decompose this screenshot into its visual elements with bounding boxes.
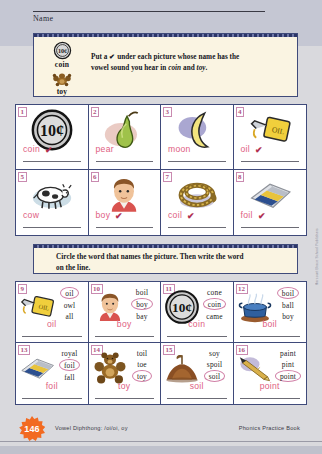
directions-1-text: Put a ✔ under each picture whose name ha… <box>91 52 291 73</box>
answer-line[interactable] <box>241 227 300 228</box>
word-choice-cell[interactable]: 15 soyspoilsoil soil <box>161 343 234 404</box>
picture-word: foil <box>241 210 253 220</box>
check-mark[interactable]: ✔ <box>255 146 263 154</box>
directions-1-end: . <box>206 64 208 72</box>
written-answer: soil <box>161 381 233 391</box>
word-choice-cell[interactable]: 16 paintpintpoint point <box>234 343 307 404</box>
word-option[interactable]: boil <box>133 287 151 297</box>
answer-line[interactable] <box>22 398 82 399</box>
picture-cell[interactable]: 6 boy ✔ <box>89 170 162 235</box>
word-row: cow ✔ <box>23 210 52 220</box>
answer-line[interactable] <box>95 336 155 337</box>
picture-cell[interactable]: 5 cow ✔ <box>16 170 89 235</box>
answer-line[interactable] <box>240 398 301 399</box>
cow-icon <box>16 175 88 215</box>
picture-cell[interactable]: 1 10¢ coin ✔ <box>16 105 89 170</box>
answer-line[interactable] <box>168 227 226 228</box>
word-choice-cell[interactable]: 9 OIL oilowlall oil <box>16 282 89 343</box>
coil-rope-icon <box>161 175 233 215</box>
answer-line[interactable] <box>96 227 154 228</box>
footer-rule <box>0 441 322 442</box>
picture-word: pear <box>96 144 114 154</box>
word-options: oilowlall <box>55 287 85 321</box>
word-row: pear ✔ <box>96 144 127 154</box>
word-choice-cell[interactable]: 13 royalfoilfall foil <box>16 343 89 404</box>
decorative-band <box>34 245 297 248</box>
directions-box-1: 10¢ coin toy Put a ✔ und <box>33 33 298 97</box>
answer-line[interactable] <box>167 336 227 337</box>
answer-line[interactable] <box>167 398 227 399</box>
foil-icon <box>234 175 307 215</box>
check-mark[interactable]: ✔ <box>187 212 195 220</box>
answer-line[interactable] <box>168 161 226 162</box>
worksheet-sheet: Name 10¢ coin <box>0 0 322 446</box>
word-row: foil ✔ <box>241 210 266 220</box>
directions-2-line2: on the line. <box>56 264 90 272</box>
word-row: coil ✔ <box>168 210 195 220</box>
directions-1-word-coin: coin <box>168 64 181 72</box>
word-options: soyspoilsoil <box>200 348 230 382</box>
picture-word: oil <box>241 144 251 154</box>
worksheet-page: Name 10¢ coin <box>0 0 322 454</box>
word-row: boy ✔ <box>96 210 124 220</box>
answer-line[interactable] <box>23 227 81 228</box>
check-mark[interactable]: ✔ <box>45 146 53 154</box>
word-option[interactable]: paint <box>277 348 299 358</box>
picture-cell[interactable]: 7 coil ✔ <box>161 170 234 235</box>
word-option[interactable]: cone <box>204 287 225 297</box>
svg-text:10¢: 10¢ <box>40 122 64 139</box>
word-option[interactable]: pint <box>279 359 297 369</box>
directions-1-line2-pre: vowel sound you hear in <box>91 64 168 72</box>
answer-line[interactable] <box>23 161 81 162</box>
word-options: royalfoilfall <box>55 348 85 382</box>
check-mark[interactable]: ✔ <box>115 212 123 220</box>
word-option[interactable]: boy <box>131 298 153 310</box>
written-answer: point <box>234 381 307 391</box>
answer-line[interactable] <box>96 161 154 162</box>
bottom-band <box>0 446 322 454</box>
answer-line[interactable] <box>22 336 82 337</box>
word-option[interactable]: soy <box>206 348 223 358</box>
svg-text:10¢: 10¢ <box>172 300 192 315</box>
picture-cell[interactable]: 4 OIL oil ✔ <box>234 105 307 170</box>
word-option[interactable]: coin <box>203 298 227 310</box>
answer-line[interactable] <box>95 398 155 399</box>
word-choice-cell[interactable]: 12 boilballboy boil <box>234 282 307 343</box>
picture-grid-part2: 9 OIL oilowlall oil 10 boilboybay boy 11 <box>15 281 307 405</box>
picture-word: boy <box>96 210 111 220</box>
word-choice-cell[interactable]: 11 10¢ conecoincame coin <box>161 282 234 343</box>
word-option[interactable]: toe <box>134 359 150 369</box>
book-label: Phonics Practice Book <box>239 425 300 431</box>
word-option[interactable]: foil <box>59 359 80 371</box>
answer-line[interactable] <box>241 161 300 162</box>
picture-word: coil <box>168 210 182 220</box>
word-option[interactable]: royal <box>58 348 80 358</box>
word-option[interactable]: spoil <box>204 359 225 369</box>
skill-label: Vowel Diphthong: /oi/oi, oy <box>55 425 128 431</box>
answer-line[interactable] <box>240 336 301 337</box>
cue-word-toy: toy <box>40 87 84 96</box>
word-option[interactable]: ball <box>279 300 297 310</box>
word-options: paintpintpoint <box>273 348 303 382</box>
word-options: conecoincame <box>200 287 230 321</box>
check-mark[interactable]: ✔ <box>258 212 266 220</box>
svg-text:10¢: 10¢ <box>57 48 66 54</box>
decorative-band <box>34 34 297 37</box>
word-option[interactable]: boil <box>277 287 299 299</box>
word-choice-cell[interactable]: 10 boilboybay boy <box>89 282 162 343</box>
written-answer: boil <box>234 319 307 329</box>
directions-1-mid: and <box>181 64 196 72</box>
picture-grid-part1: 1 10¢ coin ✔ 2 pear ✔ 3 moon <box>15 104 307 236</box>
written-answer: toy <box>89 381 161 391</box>
word-option[interactable]: toil <box>134 348 151 358</box>
written-answer: foil <box>16 381 88 391</box>
name-write-line[interactable] <box>33 11 265 12</box>
word-choice-cell[interactable]: 14 toiltoetoy toy <box>89 343 162 404</box>
picture-cell[interactable]: 2 pear ✔ <box>89 105 162 170</box>
vertical-copyright: Harcourt Brace School Publishers <box>315 228 319 285</box>
word-option[interactable]: owl <box>61 300 79 310</box>
picture-cell[interactable]: 3 moon ✔ <box>161 105 234 170</box>
directions-1-word-toy: toy <box>197 64 206 72</box>
picture-cell[interactable]: 8 foil ✔ <box>234 170 307 235</box>
word-option[interactable]: oil <box>60 287 78 299</box>
